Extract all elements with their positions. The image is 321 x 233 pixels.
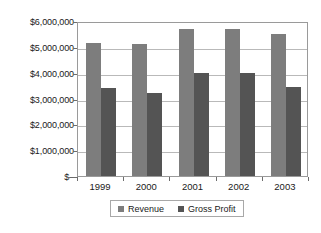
bar-gross-profit-1999 (101, 88, 116, 176)
y-axis-tick-label: $4,000,000 (0, 69, 74, 79)
legend-label: Revenue (128, 204, 164, 214)
bar-gross-profit-2002 (240, 73, 255, 176)
x-axis-tick-label-2001: 2001 (169, 181, 215, 193)
y-axis-tick-label: $2,000,000 (0, 120, 74, 130)
bar-revenue-2000 (132, 44, 147, 176)
legend-entry-revenue[interactable]: Revenue (118, 204, 164, 214)
x-axis-tick-label-2000: 2000 (123, 181, 169, 193)
legend-entry-gross-profit[interactable]: Gross Profit (178, 204, 236, 214)
y-axis-tick-label: $– (0, 172, 74, 182)
chart-legend: RevenueGross Profit (110, 200, 244, 217)
y-axis-tick-label: $3,000,000 (0, 95, 74, 105)
plot-area (77, 22, 308, 177)
legend-swatch-icon (178, 206, 184, 212)
y-axis: $–$1,000,000$2,000,000$3,000,000$4,000,0… (0, 0, 74, 233)
bar-chart: $–$1,000,000$2,000,000$3,000,000$4,000,0… (0, 0, 321, 233)
bar-revenue-2002 (225, 29, 240, 176)
x-axis-tick-label-1999: 1999 (77, 181, 123, 193)
y-axis-tick-label: $6,000,000 (0, 17, 74, 27)
x-axis-tick-label-2002: 2002 (216, 181, 262, 193)
bars-layer (78, 23, 307, 176)
bar-revenue-2001 (179, 29, 194, 176)
bar-revenue-2003 (271, 34, 286, 176)
bar-gross-profit-2003 (286, 87, 301, 176)
legend-label: Gross Profit (188, 204, 236, 214)
y-axis-tick-label: $5,000,000 (0, 43, 74, 53)
x-axis-tick-label-2003: 2003 (262, 181, 308, 193)
x-axis: 19992000200120022003 (77, 181, 308, 195)
y-axis-tick-label: $1,000,000 (0, 146, 74, 156)
bar-gross-profit-2001 (194, 73, 209, 176)
bar-revenue-1999 (86, 43, 101, 176)
legend-swatch-icon (118, 206, 124, 212)
bar-gross-profit-2000 (147, 93, 162, 176)
x-axis-tickmark (308, 177, 309, 181)
